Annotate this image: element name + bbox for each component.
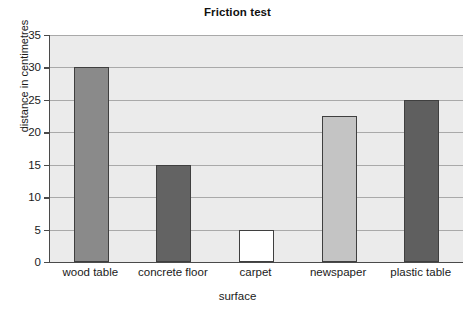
y-tick-mark	[44, 165, 50, 166]
x-tick-label: concrete floor	[138, 266, 208, 278]
x-tick-label: wood table	[62, 266, 118, 278]
y-tick-label: 35	[28, 29, 41, 41]
y-tick-label: 5	[35, 224, 41, 236]
y-tick-label: 25	[28, 94, 41, 106]
bar	[156, 165, 191, 262]
y-tick-label: 0	[35, 256, 41, 268]
x-tick-label: newspaper	[310, 266, 366, 278]
bar	[404, 100, 439, 262]
y-axis-label: distance in centimetres	[18, 0, 30, 166]
y-tick-mark	[44, 262, 50, 263]
x-axis-label: surface	[0, 290, 475, 302]
x-tick-label: plastic table	[390, 266, 451, 278]
y-tick-mark	[44, 100, 50, 101]
plot-area: 05101520253035	[49, 35, 463, 263]
y-tick-label: 30	[28, 61, 41, 73]
x-tick-label: carpet	[240, 266, 272, 278]
y-tick-label: 15	[28, 159, 41, 171]
y-tick-label: 20	[28, 126, 41, 138]
bar	[239, 230, 274, 262]
bar-series	[50, 35, 463, 262]
y-tick-mark	[44, 230, 50, 231]
y-tick-mark	[44, 197, 50, 198]
y-tick-label: 10	[28, 191, 41, 203]
chart-figure: Friction test distance in centimetres 05…	[0, 0, 475, 319]
bar	[322, 116, 357, 262]
bar	[74, 67, 109, 262]
chart-title: Friction test	[0, 6, 475, 18]
y-tick-mark	[44, 35, 50, 36]
y-tick-mark	[44, 67, 50, 68]
y-tick-mark	[44, 132, 50, 133]
